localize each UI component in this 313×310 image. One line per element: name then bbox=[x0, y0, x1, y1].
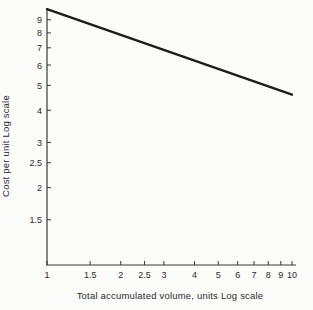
x-tick-label: 3 bbox=[161, 270, 166, 280]
chart-canvas: 11.522.53456789101.522.53456789 bbox=[0, 0, 313, 310]
tick-labels: 11.522.53456789101.522.53456789 bbox=[29, 15, 297, 280]
y-tick-label: 2 bbox=[37, 183, 42, 193]
y-tick-label: 9 bbox=[37, 15, 42, 25]
x-tick-label: 9 bbox=[278, 270, 283, 280]
y-tick-label: 8 bbox=[37, 28, 42, 38]
x-tick-label: 6 bbox=[235, 270, 240, 280]
y-tick-label: 6 bbox=[37, 61, 42, 71]
y-tick-label: 7 bbox=[37, 43, 42, 53]
y-axis-label: Cost per unit Log scale bbox=[0, 95, 11, 197]
x-tick-label: 1.5 bbox=[84, 270, 97, 280]
axis-ticks bbox=[47, 20, 292, 265]
y-tick-label: 2.5 bbox=[29, 158, 42, 168]
cost-line bbox=[47, 9, 292, 95]
x-tick-label: 2.5 bbox=[138, 270, 151, 280]
x-tick-label: 7 bbox=[252, 270, 257, 280]
x-axis-label: Total accumulated volume, units Log scal… bbox=[0, 290, 313, 301]
y-tick-label: 3 bbox=[37, 138, 42, 148]
x-tick-label: 10 bbox=[287, 270, 297, 280]
y-tick-label: 5 bbox=[37, 81, 42, 91]
y-tick-label: 1.5 bbox=[29, 215, 42, 225]
x-tick-label: 8 bbox=[266, 270, 271, 280]
y-tick-label: 4 bbox=[37, 106, 42, 116]
x-tick-label: 5 bbox=[216, 270, 221, 280]
x-tick-label: 1 bbox=[44, 270, 49, 280]
experience-curve-figure: 11.522.53456789101.522.53456789 Total ac… bbox=[0, 0, 313, 310]
x-tick-label: 2 bbox=[118, 270, 123, 280]
experience-curve-line bbox=[47, 9, 292, 95]
x-tick-label: 4 bbox=[192, 270, 197, 280]
